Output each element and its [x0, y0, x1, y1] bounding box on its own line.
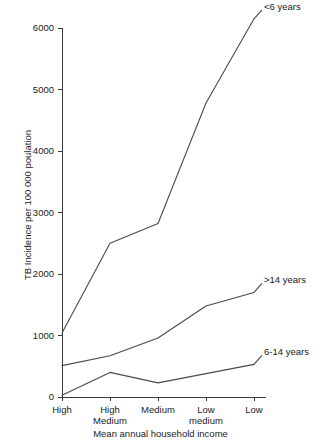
leader-line-1: [254, 283, 262, 292]
y-tick-label: 1000: [0, 331, 54, 341]
axis-lines: [62, 28, 266, 397]
series-line-1: [62, 292, 254, 365]
series-lines: [62, 19, 254, 395]
series-label-0: <6 years: [264, 2, 301, 12]
x-tick-label-line: Medium: [70, 416, 150, 427]
annotation-leader-lines: [254, 10, 262, 365]
x-tick-label-line: medium: [166, 416, 246, 427]
tb-incidence-line-chart: 0100020003000400050006000 HighHighMedium…: [0, 0, 321, 447]
y-tick-label: 0: [0, 392, 54, 402]
x-tick-label: Low: [214, 405, 294, 416]
y-tick-label: 6000: [0, 23, 54, 33]
x-axis-ticks: [62, 397, 254, 401]
leader-line-2: [254, 355, 262, 364]
y-axis-title: TB Incidence per 100 000 poulation: [22, 130, 33, 280]
series-label-2: 6-14 years: [264, 347, 309, 357]
y-tick-label: 5000: [0, 85, 54, 95]
x-axis-title: Mean annual household income: [0, 428, 321, 439]
series-line-0: [62, 19, 254, 333]
chart-plot-area: [0, 0, 321, 447]
series-line-2: [62, 364, 254, 395]
y-axis-ticks: [58, 28, 62, 397]
leader-line-0: [254, 10, 262, 19]
series-label-1: >14 years: [264, 275, 306, 285]
x-tick-label-line: Low: [214, 405, 294, 416]
